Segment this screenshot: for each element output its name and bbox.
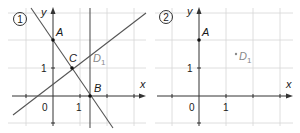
point-c-label: C: [69, 52, 77, 64]
point-d1-2: [235, 53, 237, 55]
x-tick-label-1: 1: [76, 102, 82, 113]
x-axis-label-2: x: [285, 78, 292, 90]
point-c: [70, 66, 74, 70]
origin-label-2: 0: [189, 102, 195, 113]
x-axis-arrow-icon: [286, 94, 293, 99]
panel-2: 2 y x 0 1 1 A D1: [155, 5, 293, 126]
panel-1-badge: 1: [17, 14, 23, 25]
panel-1: 1 y x 0 1 1 A C B D1: [8, 6, 146, 128]
panel-2-badge: 2: [163, 12, 169, 23]
x-axis-label-1: x: [139, 78, 146, 90]
point-a-1: [51, 38, 55, 42]
y-axis-arrow-icon: [197, 7, 202, 14]
origin-label-1: 0: [42, 102, 48, 113]
y-axis-label-1: y: [40, 6, 48, 18]
y-tick-label-2: 1: [187, 63, 193, 74]
point-d1-label-1: D1: [93, 52, 106, 67]
point-b-label: B: [94, 82, 101, 94]
point-a-label-1: A: [55, 26, 63, 38]
y-axis-arrow-icon: [51, 7, 56, 14]
coordinate-diagrams: 1 y x 0 1 1 A C B D1: [0, 0, 300, 133]
x-tick-label-2: 1: [223, 102, 229, 113]
y-axis-label-2: y: [186, 5, 194, 17]
point-b: [88, 94, 92, 98]
y-tick-label-1: 1: [41, 63, 47, 74]
point-a-2: [197, 38, 201, 42]
x-axis-arrow-icon: [139, 94, 146, 99]
line-cd1: [13, 13, 146, 115]
point-a-label-2: A: [201, 26, 209, 38]
point-d1-label-2: D1: [239, 50, 252, 65]
diagram-svg: 1 y x 0 1 1 A C B D1: [0, 0, 300, 133]
